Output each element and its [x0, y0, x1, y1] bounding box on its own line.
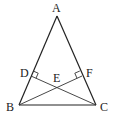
- segment-ac: [57, 16, 96, 105]
- label-f: F: [86, 66, 93, 80]
- label-a: A: [52, 1, 61, 15]
- label-e: E: [53, 71, 60, 85]
- geometry-diagram: A B C D E F: [0, 0, 113, 124]
- label-b: B: [6, 100, 14, 114]
- segment-ab: [19, 16, 57, 105]
- segment-cd: [31, 76, 96, 105]
- segment-bf: [19, 76, 82, 105]
- label-d: D: [20, 66, 29, 80]
- label-c: C: [100, 100, 108, 114]
